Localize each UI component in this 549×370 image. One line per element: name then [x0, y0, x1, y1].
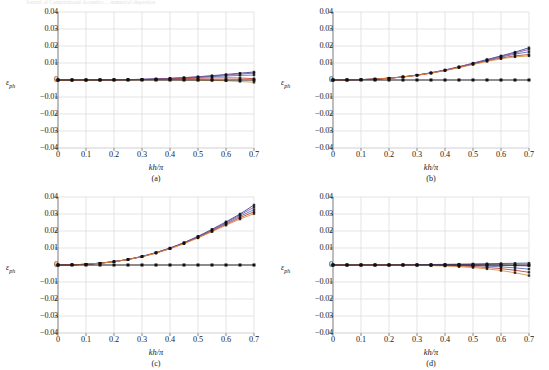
data-point-marker — [528, 271, 530, 273]
x-axis-title-c: kh/π — [58, 348, 254, 357]
y-tick-label: −0.01 — [315, 93, 333, 101]
data-point-marker — [71, 264, 74, 267]
data-series-line — [58, 210, 254, 265]
data-point-marker — [500, 269, 502, 271]
data-point-marker — [528, 79, 531, 82]
y-tick-label: 0.01 — [319, 59, 333, 67]
data-point-marker — [211, 231, 213, 233]
y-tick-label: 0.04 — [44, 193, 58, 201]
x-tick-label: 0 — [331, 151, 335, 159]
x-tick-label: 0.7 — [249, 336, 259, 344]
data-point-marker — [402, 76, 404, 78]
y-tick-label: 0.02 — [319, 227, 333, 235]
x-tick-label: 0 — [331, 336, 335, 344]
data-point-marker — [71, 79, 74, 82]
data-series-line — [58, 207, 254, 265]
x-tick-labels-c: 00.10.20.30.40.50.60.7 — [58, 336, 254, 348]
data-point-marker — [253, 264, 256, 267]
data-point-marker — [85, 79, 88, 82]
data-series-line — [333, 48, 529, 80]
y-tick-label: −0.03 — [40, 312, 58, 320]
x-tick-label: 0.4 — [165, 336, 175, 344]
y-tick-label: 0 — [329, 261, 333, 269]
y-axis-subscript-d: ph — [284, 268, 290, 274]
x-axis-den-b: π — [434, 163, 438, 172]
x-tick-label: 0.3 — [412, 336, 422, 344]
data-series-line — [333, 56, 529, 80]
data-point-marker — [430, 79, 433, 82]
data-point-marker — [514, 264, 517, 267]
data-point-marker — [127, 264, 130, 267]
x-tick-label: 0.5 — [193, 336, 203, 344]
y-tick-label: −0.02 — [315, 110, 333, 118]
data-point-marker — [514, 267, 516, 269]
data-point-marker — [99, 79, 102, 82]
panel-c: 0.040.030.020.010−0.01−0.02−0.03−0.04 00… — [0, 185, 274, 370]
data-point-marker — [458, 66, 460, 68]
x-tick-label: 0.3 — [137, 151, 147, 159]
data-point-marker — [127, 258, 129, 260]
data-point-marker — [141, 264, 144, 267]
y-tick-label: 0.01 — [44, 244, 58, 252]
y-tick-label: 0 — [54, 261, 58, 269]
data-point-marker — [239, 218, 241, 220]
data-point-marker — [486, 268, 488, 270]
data-point-marker — [528, 51, 530, 53]
data-point-marker — [514, 56, 516, 58]
x-tick-labels-d: 00.10.20.30.40.50.60.7 — [333, 336, 529, 348]
data-point-marker — [127, 79, 130, 82]
y-tick-label: −0.01 — [40, 278, 58, 286]
data-point-marker — [113, 79, 116, 82]
data-series-line — [333, 55, 529, 81]
data-point-marker — [141, 256, 143, 258]
x-axis-title-d: kh/π — [333, 348, 529, 357]
x-tick-label: 0.7 — [524, 336, 534, 344]
x-tick-label: 0.2 — [109, 336, 119, 344]
data-point-marker — [253, 79, 256, 82]
x-tick-label: 0.1 — [356, 336, 366, 344]
data-point-marker — [183, 264, 186, 267]
data-point-marker — [430, 264, 433, 267]
x-tick-labels-b: 00.10.20.30.40.50.60.7 — [333, 151, 529, 163]
data-point-marker — [155, 79, 158, 82]
data-point-marker — [500, 79, 503, 82]
x-tick-label: 0.7 — [524, 151, 534, 159]
x-tick-label: 0.1 — [356, 151, 366, 159]
data-point-marker — [239, 264, 242, 267]
y-tick-label: 0.02 — [319, 42, 333, 50]
data-point-marker — [402, 79, 405, 82]
x-axis-title-b: kh/π — [333, 163, 529, 172]
data-point-marker — [528, 55, 530, 57]
y-tick-label: −0.02 — [315, 295, 333, 303]
data-point-marker — [346, 79, 349, 82]
data-point-marker — [253, 74, 255, 76]
panel-label-a: (a) — [58, 174, 254, 183]
x-tick-label: 0 — [56, 151, 60, 159]
data-point-marker — [99, 264, 102, 267]
data-point-marker — [253, 206, 255, 208]
y-tick-label: −0.02 — [40, 295, 58, 303]
data-series-line — [333, 49, 529, 80]
x-tick-label: 0.1 — [81, 336, 91, 344]
y-tick-label: −0.01 — [40, 93, 58, 101]
y-tick-label: 0.03 — [319, 210, 333, 218]
y-tick-label: −0.02 — [40, 110, 58, 118]
data-point-marker — [458, 79, 461, 82]
x-tick-label: 0.4 — [440, 151, 450, 159]
data-point-marker — [416, 79, 419, 82]
data-point-marker — [458, 264, 461, 267]
y-tick-label: −0.03 — [315, 127, 333, 135]
data-point-marker — [444, 69, 446, 71]
y-tick-label: −0.03 — [315, 312, 333, 320]
x-tick-label: 0.6 — [221, 336, 231, 344]
data-point-marker — [444, 79, 447, 82]
panel-b: 0.040.030.020.010−0.01−0.02−0.03−0.04 00… — [275, 0, 549, 185]
x-tick-label: 0.2 — [384, 336, 394, 344]
data-point-marker — [225, 79, 228, 82]
y-tick-label: 0 — [54, 76, 58, 84]
x-tick-label: 0.2 — [109, 151, 119, 159]
y-tick-label: −0.03 — [40, 127, 58, 135]
y-tick-labels-b: 0.040.030.020.010−0.01−0.02−0.03−0.04 — [297, 8, 333, 148]
data-point-marker — [416, 264, 419, 267]
data-point-marker — [472, 63, 474, 65]
